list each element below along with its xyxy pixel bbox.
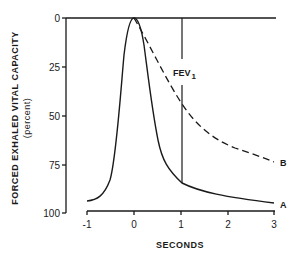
y-tick-100: 100 [43,208,60,219]
x-tick-1: 1 [178,219,184,230]
curve-a [87,18,274,203]
x-axis: -1 0 1 2 3 SECONDS [83,211,278,250]
x-tick-3: 3 [271,219,277,230]
x-tick-2: 2 [225,219,231,230]
y-tick-0: 0 [54,13,60,24]
fev1-label: FEV1 [173,68,197,81]
x-axis-title: SECONDS [156,240,204,250]
x-tick-neg1: -1 [83,219,92,230]
curve-b [134,18,274,162]
fev-chart: 0 25 50 75 100 FORCED EXHALED VITAL CAPA… [0,0,294,255]
y-tick-75: 75 [49,160,61,171]
series-label-a: A [280,200,287,210]
series-label-b: B [280,158,287,168]
x-tick-0: 0 [131,219,137,230]
y-axis: 0 25 50 75 100 [43,13,66,219]
y-axis-subtitle: (percent) [22,98,32,139]
y-axis-title: FORCED EXHALED VITAL CAPACITY [10,31,20,205]
y-tick-50: 50 [49,111,61,122]
y-tick-25: 25 [49,62,61,73]
